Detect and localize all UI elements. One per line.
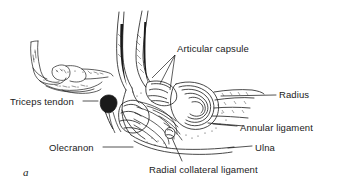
label-radius: Radius bbox=[279, 89, 309, 100]
figure-letter: a bbox=[23, 166, 29, 178]
radial-collateral-ligament-shape bbox=[165, 128, 175, 139]
anatomy-figure: Articular capsule Radius Annular ligamen… bbox=[0, 0, 338, 190]
label-annular-ligament: Annular ligament bbox=[240, 122, 313, 133]
label-articular-capsule: Articular capsule bbox=[177, 43, 249, 54]
label-radial-collateral-ligament: Radial collateral ligament bbox=[149, 164, 258, 175]
label-olecranon: Olecranon bbox=[49, 142, 94, 153]
label-triceps-tendon: Triceps tendon bbox=[10, 96, 74, 107]
label-ulna: Ulna bbox=[255, 142, 275, 153]
